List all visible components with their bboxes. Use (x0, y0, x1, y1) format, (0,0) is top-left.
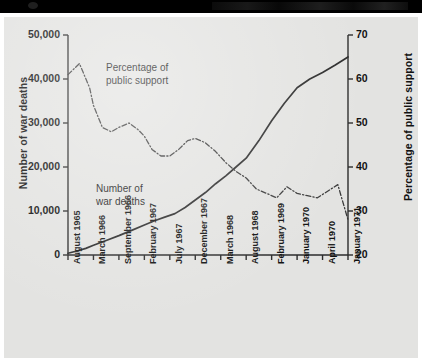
right-tick-label: 50 (356, 116, 396, 128)
x-tick-label: March 1968 (225, 215, 235, 264)
header-smudge-left-icon (28, 2, 38, 9)
annotation-line-1: Number of (96, 183, 145, 196)
annotation-percentage-of-public-support: Percentage of public support (106, 62, 168, 87)
x-tick-label: December 1967 (199, 198, 209, 264)
x-tick-label: March 1966 (97, 215, 107, 264)
plot-area (4, 17, 418, 358)
left-tick-label: 20,000 (4, 160, 60, 172)
x-tick-label: January 1970 (301, 207, 311, 264)
chart-panel: Number of war deaths Percentage of publi… (4, 17, 418, 358)
header-smudge-right-icon (212, 2, 408, 10)
right-tick-label: 40 (356, 160, 396, 172)
x-tick-label: April 1970 (327, 221, 337, 264)
right-tick-label: 20 (356, 248, 396, 260)
annotation-line-1: Percentage of (106, 62, 168, 75)
x-tick-label: July 1967 (174, 223, 184, 264)
left-tick-label: 30,000 (4, 116, 60, 128)
left-tick-label: 10,000 (4, 204, 60, 216)
x-tick-label: August 1965 (72, 210, 82, 264)
x-tick-label: February 1967 (148, 203, 158, 264)
chart-svg (4, 17, 418, 358)
left-tick-label: 50,000 (4, 28, 60, 40)
left-axis-title: Number of war deaths (17, 71, 29, 195)
x-tick-label: August 1968 (250, 210, 260, 264)
annotation-number-of-war-deaths: Number of war deaths (96, 183, 145, 208)
right-tick-label: 30 (356, 204, 396, 216)
x-tick-label: January 1971 (352, 207, 362, 264)
annotation-line-2: public support (106, 75, 168, 88)
screenshot-root: Number of war deaths Percentage of publi… (0, 0, 422, 361)
right-tick-label: 60 (356, 72, 396, 84)
annotation-line-2: war deaths (96, 196, 145, 209)
scanned-black-header-band (0, 0, 422, 13)
left-tick-label: 0 (4, 248, 60, 260)
x-tick-label: February 1969 (276, 203, 286, 264)
right-axis-title: Percentage of public support (402, 61, 414, 201)
right-tick-label: 70 (356, 28, 396, 40)
left-tick-label: 40,000 (4, 72, 60, 84)
